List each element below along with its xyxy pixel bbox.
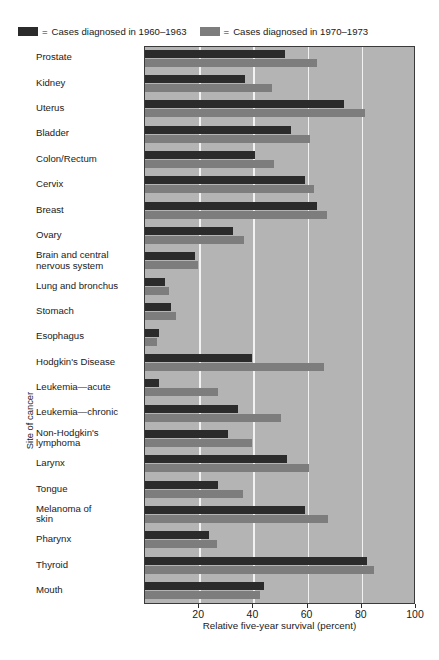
y-axis-label-line: lymphoma: [36, 438, 99, 449]
y-axis-label: Hodgkin's Disease: [36, 357, 115, 368]
bar-1960: [145, 582, 264, 590]
bar-1960: [145, 430, 228, 438]
bar-row: [145, 354, 414, 379]
bar-row: [145, 303, 414, 328]
bar-1970: [145, 59, 317, 67]
bar-1960: [145, 202, 317, 210]
bar-1970: [145, 566, 374, 574]
y-axis-label-line: Larynx: [36, 458, 65, 469]
bar-series-container: [145, 47, 414, 603]
bar-1960: [145, 151, 255, 159]
bar-1960: [145, 278, 165, 286]
bar-1960: [145, 100, 344, 108]
y-axis-label: Kidney: [36, 78, 65, 89]
y-axis-label: Mouth: [36, 585, 63, 596]
bar-1970: [145, 464, 309, 472]
y-axis-label-line: Prostate: [36, 52, 72, 63]
y-axis-label: Melanoma ofskin: [36, 504, 91, 525]
bar-row: [145, 329, 414, 354]
bar-1970: [145, 236, 244, 244]
legend-swatch-1970-icon: [200, 27, 220, 36]
y-axis-label-line: Pharynx: [36, 534, 71, 545]
y-axis-label-line: Kidney: [36, 78, 65, 89]
bar-1970: [145, 414, 281, 422]
bar-row: [145, 278, 414, 303]
bar-row: [145, 252, 414, 277]
y-axis-label: Tongue: [36, 484, 67, 495]
y-axis-label: Larynx: [36, 458, 65, 469]
y-axis-label: Colon/Rectum: [36, 154, 97, 165]
bar-1960: [145, 506, 305, 514]
y-axis-label: Leukemia—acute: [36, 382, 111, 393]
y-axis-label-line: Tongue: [36, 484, 67, 495]
bar-row: [145, 506, 414, 531]
bar-1960: [145, 227, 233, 235]
bar-1960: [145, 455, 287, 463]
legend: = Cases diagnosed in 1960–1963 = Cases d…: [18, 26, 368, 37]
bar-row: [145, 151, 414, 176]
y-axis-label-line: Brain and central: [36, 250, 109, 261]
bar-1970: [145, 540, 217, 548]
bar-row: [145, 100, 414, 125]
bar-row: [145, 176, 414, 201]
x-axis-tick-label: 100: [406, 608, 424, 620]
y-axis-label: Leukemia—chronic: [36, 407, 118, 418]
bar-1970: [145, 388, 218, 396]
y-axis-label: Thyroid: [36, 560, 68, 571]
bar-row: [145, 202, 414, 227]
bar-row: [145, 582, 414, 604]
bar-1970: [145, 515, 328, 523]
bar-1970: [145, 211, 327, 219]
legend-label-1970: Cases diagnosed in 1970–1973: [233, 26, 368, 37]
y-axis-label-line: Esophagus: [36, 331, 84, 342]
bar-row: [145, 531, 414, 556]
bar-1970: [145, 261, 198, 269]
legend-label-1960: Cases diagnosed in 1960–1963: [52, 26, 187, 37]
y-axis-label: Bladder: [36, 128, 69, 139]
y-axis-label-line: Lung and bronchus: [36, 281, 118, 292]
y-axis-label: Lung and bronchus: [36, 281, 118, 292]
y-axis-label-line: Leukemia—acute: [36, 382, 111, 393]
bar-1960: [145, 557, 367, 565]
bar-1960: [145, 126, 291, 134]
y-axis-label: Esophagus: [36, 331, 84, 342]
legend-entry-1970: = Cases diagnosed in 1970–1973: [200, 26, 369, 37]
y-axis-label-line: Thyroid: [36, 560, 68, 571]
y-axis-title: Site of cancer: [24, 371, 35, 471]
x-axis-ticks: 20406080100: [144, 604, 415, 618]
y-axis-label-line: Ovary: [36, 230, 62, 241]
y-axis-label-line: Uterus: [36, 103, 64, 114]
bar-1970: [145, 185, 314, 193]
bar-row: [145, 405, 414, 430]
bar-1970: [145, 84, 272, 92]
bar-1970: [145, 287, 169, 295]
x-axis-tick-label: 60: [301, 608, 313, 620]
y-axis-label-line: Mouth: [36, 585, 63, 596]
bar-row: [145, 455, 414, 480]
y-axis-label: Pharynx: [36, 534, 71, 545]
y-axis-label-line: nervous system: [36, 261, 109, 272]
bar-row: [145, 430, 414, 455]
legend-swatch-1960-icon: [18, 27, 38, 36]
y-axis-labels: ProstateKidneyUterusBladderColon/RectumC…: [0, 46, 140, 604]
bar-1960: [145, 329, 159, 337]
bar-1970: [145, 363, 324, 371]
x-axis-tick-label: 40: [247, 608, 259, 620]
y-axis-label: Uterus: [36, 103, 64, 114]
bar-row: [145, 379, 414, 404]
bar-1960: [145, 354, 252, 362]
bar-1970: [145, 439, 252, 447]
bar-1960: [145, 75, 245, 83]
x-axis-title: Relative five-year survival (percent): [144, 620, 415, 631]
y-axis-label-line: Colon/Rectum: [36, 154, 97, 165]
y-axis-label: Non-Hodgkin'slymphoma: [36, 428, 99, 449]
bar-1960: [145, 50, 285, 58]
bar-1970: [145, 490, 243, 498]
bar-row: [145, 227, 414, 252]
y-axis-label-line: Hodgkin's Disease: [36, 357, 115, 368]
legend-entry-1960: = Cases diagnosed in 1960–1963: [18, 26, 187, 37]
y-axis-label-line: Bladder: [36, 128, 69, 139]
bar-row: [145, 126, 414, 151]
legend-equals-1970: =: [224, 26, 230, 37]
bar-1960: [145, 303, 171, 311]
